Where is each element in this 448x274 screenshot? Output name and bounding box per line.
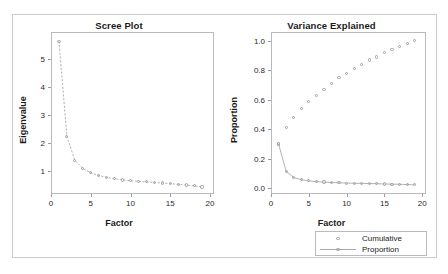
data-point-marker xyxy=(285,170,288,173)
data-point-marker xyxy=(322,180,325,183)
data-point-marker xyxy=(398,183,401,186)
clipped-caption-text xyxy=(8,0,308,9)
data-point-marker xyxy=(200,185,203,188)
data-point-marker xyxy=(368,182,371,185)
data-point-marker xyxy=(300,107,303,110)
series-lines xyxy=(225,15,438,257)
figure-outer-frame: Scree Plot Eigenvalue Factor 05101520123… xyxy=(12,14,437,258)
series-lines xyxy=(13,15,225,257)
figure-page: Scree Plot Eigenvalue Factor 05101520123… xyxy=(0,0,448,274)
data-point-marker xyxy=(177,183,180,186)
data-point-marker xyxy=(368,58,371,61)
data-point-marker xyxy=(153,181,156,184)
data-point-marker xyxy=(121,178,124,181)
data-point-marker xyxy=(315,94,318,97)
data-point-marker xyxy=(383,182,386,185)
data-point-marker xyxy=(390,183,393,186)
data-point-marker xyxy=(137,180,140,183)
data-point-marker xyxy=(169,182,172,185)
data-point-marker xyxy=(322,88,325,91)
data-point-marker xyxy=(185,183,188,186)
data-point-marker xyxy=(406,183,409,186)
panel-variance-explained: Variance Explained Proportion Factor Cum… xyxy=(225,15,438,257)
data-point-marker xyxy=(337,76,340,79)
panel-scree-plot: Scree Plot Eigenvalue Factor 05101520123… xyxy=(13,15,225,257)
data-point-marker xyxy=(345,182,348,185)
data-point-marker xyxy=(390,48,393,51)
data-point-marker xyxy=(161,181,164,184)
data-point-marker xyxy=(277,142,280,145)
data-point-marker xyxy=(57,40,60,43)
data-point-marker xyxy=(345,72,348,75)
data-point-marker xyxy=(353,182,356,185)
